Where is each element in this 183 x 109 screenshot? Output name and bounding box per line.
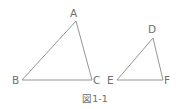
vertex-label-a: A: [70, 7, 78, 19]
vertex-label-c: C: [93, 74, 100, 86]
similar-triangles-diagram: A B C D E F 図1-1: [0, 0, 183, 109]
vertex-label-b: B: [12, 74, 19, 86]
vertex-label-f: F: [164, 74, 170, 86]
vertex-label-d: D: [148, 23, 156, 35]
figure-caption: 図1-1: [82, 93, 108, 104]
triangle-abc: A B C: [12, 7, 100, 86]
triangle-abc-shape: [22, 21, 92, 80]
triangle-def: D E F: [107, 23, 170, 86]
triangle-def-shape: [117, 38, 163, 80]
vertex-label-e: E: [107, 74, 114, 86]
